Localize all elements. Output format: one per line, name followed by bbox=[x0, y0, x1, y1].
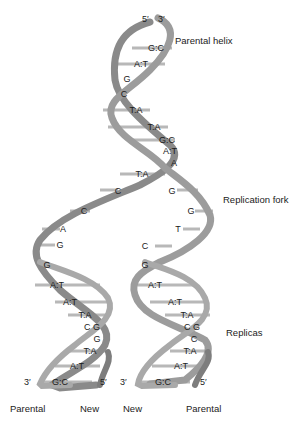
dna-ribbons bbox=[0, 0, 304, 425]
base-pair: T:A bbox=[147, 123, 160, 132]
strand-label-new-left: New bbox=[80, 404, 99, 414]
base-pair: A:T bbox=[168, 298, 182, 307]
base: C bbox=[121, 90, 128, 99]
base-pair: T:A bbox=[78, 311, 91, 320]
base-pair: T:A bbox=[180, 311, 193, 320]
strand-label-parental-right: Parental bbox=[186, 404, 221, 414]
base: G bbox=[187, 207, 194, 216]
base-pair: T:A bbox=[83, 347, 96, 356]
base-pair: G:C bbox=[155, 378, 171, 387]
base-pair: T:A bbox=[129, 106, 142, 115]
base-pair: G:C bbox=[148, 44, 164, 53]
base: C bbox=[142, 242, 149, 251]
base: G bbox=[168, 187, 175, 196]
parental-helix-label: Parental helix bbox=[175, 36, 233, 46]
base: C bbox=[81, 207, 88, 216]
base: G bbox=[56, 241, 63, 250]
replication-fork-label: Replication fork bbox=[223, 195, 288, 205]
replicas-label: Replicas bbox=[226, 328, 262, 338]
base: G bbox=[123, 75, 130, 84]
base-pair: A:T bbox=[70, 362, 84, 371]
base: G bbox=[141, 261, 148, 270]
base-pair: A:T bbox=[148, 281, 162, 290]
base: G bbox=[43, 261, 50, 270]
base: G bbox=[93, 335, 100, 344]
strand-a bbox=[36, 22, 174, 388]
base-pair: A:T bbox=[50, 281, 64, 290]
five-prime-top: 5′ bbox=[142, 15, 149, 24]
base-pair: T:A bbox=[135, 170, 148, 179]
strand-label-new-right: New bbox=[123, 404, 142, 414]
base-pair: G:C bbox=[52, 378, 68, 387]
base: A bbox=[171, 159, 177, 168]
base: T bbox=[175, 225, 181, 234]
three-prime-top: 3′ bbox=[158, 15, 165, 24]
base-pair: A:T bbox=[174, 362, 188, 371]
base: C bbox=[191, 335, 198, 344]
five-prime-right: 5′ bbox=[200, 378, 207, 387]
three-prime-left: 3′ bbox=[24, 378, 31, 387]
base-pair: A:T bbox=[63, 298, 77, 307]
dna-replication-diagram: 5′ 3′ Parental helix Replication fork Re… bbox=[0, 0, 304, 425]
base-pair: G:C bbox=[159, 136, 175, 145]
base-pair: A:T bbox=[163, 147, 177, 156]
base-pair: T:A bbox=[183, 347, 196, 356]
strand-label-parental-left: Parental bbox=[10, 404, 45, 414]
five-prime-left: 5′ bbox=[100, 378, 107, 387]
base: A bbox=[60, 225, 66, 234]
base: C bbox=[115, 187, 122, 196]
base-pair: C G bbox=[184, 323, 200, 332]
three-prime-right: 3′ bbox=[120, 378, 127, 387]
base-pair: A:T bbox=[134, 60, 148, 69]
base-pair: C G bbox=[84, 323, 100, 332]
